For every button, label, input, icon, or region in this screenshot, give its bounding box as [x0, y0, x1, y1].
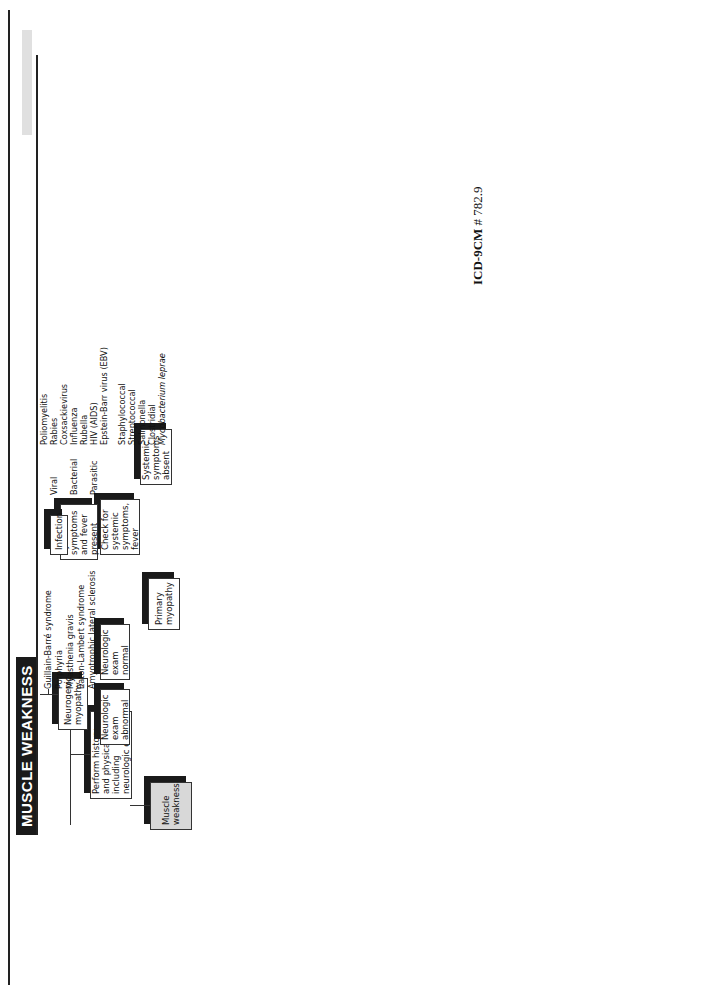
- page-title: MUSCLE WEAKNESS: [16, 657, 38, 835]
- icd-code: ICD-9CM # 782.9: [470, 186, 486, 285]
- node-primary-myopathy: Primary myopathy: [148, 578, 180, 630]
- connector: [70, 754, 90, 755]
- connector: [130, 805, 150, 806]
- icd-number: # 782.9: [470, 186, 485, 225]
- node-infection: Infection: [50, 515, 68, 555]
- connector: [48, 689, 49, 695]
- rotated-page: MUSCLE WEAKNESS ICD-9CM # 782.9 Muscle w…: [0, 0, 715, 985]
- icd-label: ICD-9CM: [470, 229, 485, 285]
- node-check-systemic: Check for systemic symptoms, fever: [100, 499, 140, 555]
- top-rule: [8, 10, 10, 985]
- node-muscle-weakness: Muscle weakness: [150, 782, 192, 830]
- title-rule: [36, 55, 38, 835]
- node-neuro-abnormal: Neurologic exam abnormal: [100, 689, 130, 745]
- node-neuro-normal: Neurologic exam normal: [100, 624, 130, 680]
- connector: [40, 694, 58, 695]
- page-corner-shade: [22, 30, 32, 135]
